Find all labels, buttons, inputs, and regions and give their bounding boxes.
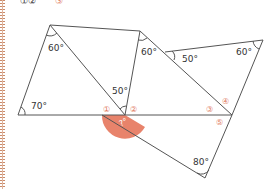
angle-label-center-top: 50° [112,86,128,96]
angle-label-top-middle: 60° [141,47,157,57]
marker-4: ④ [222,97,229,106]
angle-label-right-middle: 50° [182,54,198,64]
geometry-diagram: ①② ③ 60° 50° 70° 60° 50° 60° 80° ?° ① ② [0,0,271,189]
angle-label-bottom-left: 70° [31,101,47,111]
header-highlight: ③ [55,0,63,6]
angle-label-bottom: 80° [193,157,209,167]
marker-1: ① [103,105,110,114]
angle-label-top-left: 60° [48,43,64,53]
marker-5: ⑤ [216,118,223,127]
angle-label-top-right: 60° [236,47,252,57]
marker-3: ③ [206,105,213,114]
marker-2: ② [130,105,137,114]
header-text: ①② [20,0,36,6]
